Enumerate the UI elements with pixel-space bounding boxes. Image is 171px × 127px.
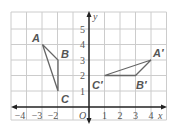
vertex-label-b: B xyxy=(61,48,69,60)
vertex-label-b-prime: B′ xyxy=(136,79,148,91)
vertex-label-c: C xyxy=(61,93,70,105)
y-tick-label: 2 xyxy=(80,70,85,81)
y-tick-label: 1 xyxy=(80,86,85,97)
x-tick-label: −3 xyxy=(32,110,43,121)
triangle-a-prime-b-prime-c-prime xyxy=(105,60,152,76)
coordinate-grid: y x O −4 −3 −2 1 2 3 4 1 2 3 4 5 A B C A… xyxy=(0,0,171,127)
x-tick-label: 2 xyxy=(118,110,123,121)
y-tick-label: 4 xyxy=(80,39,85,50)
x-tick-label: 4 xyxy=(149,110,154,121)
vertex-label-a: A xyxy=(31,32,40,44)
y-axis-down-arrow-icon xyxy=(87,118,92,124)
y-tick-label: 5 xyxy=(80,24,85,35)
origin-label: O xyxy=(79,110,86,121)
x-axis-label: x xyxy=(157,110,163,121)
vertex-label-c-prime: C′ xyxy=(92,79,104,91)
triangle-abc xyxy=(43,45,59,92)
x-tick-label: −2 xyxy=(48,110,59,121)
x-axis-left-arrow-icon xyxy=(11,105,17,110)
y-axis-label: y xyxy=(92,11,98,22)
x-tick-label: −4 xyxy=(15,110,26,121)
x-tick-label: 1 xyxy=(102,110,107,121)
y-tick-label: 3 xyxy=(80,55,85,66)
vertex-label-a-prime: A′ xyxy=(152,47,165,59)
x-tick-label: 3 xyxy=(133,110,138,121)
